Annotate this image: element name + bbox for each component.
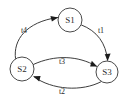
edge-t2-path [34, 77, 102, 88]
edge-t3-arrowhead [90, 61, 97, 67]
edge-t4-arrowhead [50, 16, 58, 22]
node-s3-label: S3 [102, 67, 112, 77]
node-s2[interactable]: S2 [10, 57, 34, 81]
node-s2-label: S2 [17, 64, 27, 74]
edge-t3-label: t3 [59, 57, 65, 66]
edge-t4[interactable]: t4 [15, 16, 58, 59]
edge-t2-label: t2 [59, 87, 65, 96]
edge-t1-label: t1 [98, 26, 104, 35]
diagram-canvas: t4 t1 t3 t2 S1 S2 [0, 0, 126, 104]
edge-t2[interactable]: t2 [33, 76, 101, 96]
edge-t1[interactable]: t1 [82, 25, 111, 61]
node-s1-label: S1 [65, 15, 75, 25]
node-s1[interactable]: S1 [58, 8, 82, 32]
edge-t4-path [15, 18, 57, 59]
edge-t3[interactable]: t3 [33, 57, 97, 67]
edge-t1-arrowhead [105, 54, 111, 61]
state-transition-diagram: t4 t1 t3 t2 S1 S2 [0, 0, 126, 104]
edge-t4-label: t4 [21, 26, 27, 35]
node-s3[interactable]: S3 [96, 61, 118, 83]
